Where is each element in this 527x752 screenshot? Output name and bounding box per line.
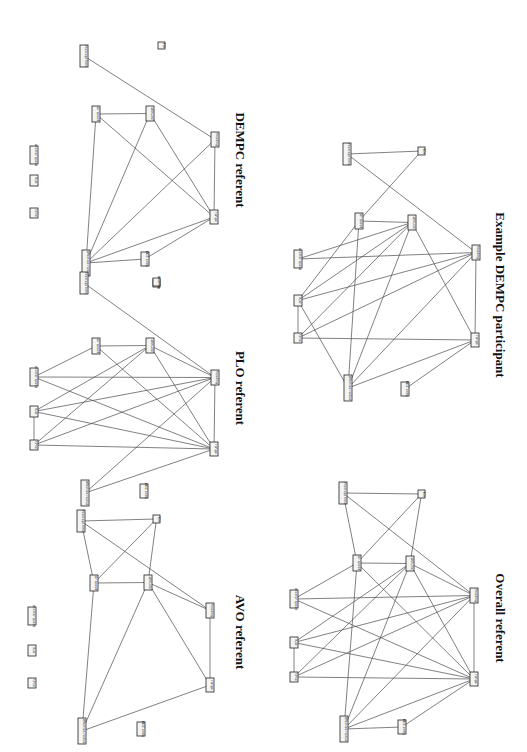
node-label: range [214, 444, 218, 453]
node-altitude: altitude [146, 106, 154, 121]
edge-intercept_time-toi [343, 493, 422, 494]
panel-title-avo: AVO referent [233, 595, 248, 670]
node-altitude: altitude [408, 215, 416, 230]
node-effective_radius: effective radius [340, 716, 348, 742]
node-label: heading [474, 589, 478, 602]
node-altitude: altitude [146, 338, 154, 353]
node-label: BDZ entry [141, 721, 145, 737]
edge-air_speed-altitude [357, 563, 410, 564]
edge-intercept_time-toi [347, 151, 422, 154]
node-label: range [475, 335, 479, 344]
node-bdz_entry: BDZ entry [141, 251, 149, 267]
edge-fuel-heading [294, 596, 474, 643]
node-label: shooter speed [298, 248, 302, 271]
node-shooter_speed: shooter speed [290, 588, 298, 611]
node-label: time [34, 209, 38, 216]
edge-altitude-fuel [34, 346, 150, 412]
edge-range-effective_radius [82, 685, 210, 731]
edge-time-heading [294, 596, 474, 678]
node-fuel: fuel [28, 645, 36, 656]
edge-fuel-effective_radius [298, 301, 348, 389]
edge-heading-effective_radius [348, 253, 476, 389]
edge-air_speed-effective_radius [344, 563, 357, 729]
panel-edges-avo [81, 519, 210, 731]
node-air_speed: air speed [353, 555, 361, 571]
node-bdz_entry: BDZ entry [140, 483, 148, 499]
panel-title-overall: Overall referent [493, 573, 508, 663]
edge-shooter_speed-heading [34, 377, 215, 378]
node-label: air speed [96, 107, 100, 122]
node-label: air speed [96, 339, 100, 354]
panel-edges-plo [34, 283, 215, 493]
node-range: range [210, 210, 218, 224]
node-label: heading [210, 604, 214, 617]
node-label: heading [215, 371, 219, 384]
edge-intercept_time-heading [347, 154, 476, 253]
edge-fuel-range [294, 643, 474, 680]
edge-altitude-range [412, 223, 475, 341]
node-label: BDZ entry [145, 251, 149, 267]
node-label: intercept time [81, 510, 85, 533]
edge-range-bdz_entry [405, 340, 475, 389]
node-label: shooter speed [34, 366, 38, 389]
edge-air_speed-range [96, 114, 214, 217]
panel-title-dempc: DEMPC referent [233, 112, 248, 208]
node-intercept_time: intercept time [339, 482, 347, 505]
panel-nodes-plo: intercept timebearingair speedaltitudesh… [30, 272, 219, 506]
node-label: shooter speed [294, 588, 298, 611]
node-bdz_entry: BDZ entry [137, 721, 145, 737]
node-label: TOI [162, 42, 166, 48]
panel-title-example_dempc: Example DEMPC participant [493, 212, 508, 378]
panel-edges-overall [294, 493, 474, 729]
node-toi: TOI [418, 147, 426, 155]
edge-altitude-range [150, 114, 214, 218]
node-label: effective radius [82, 719, 86, 744]
edge-range-effective_radius [348, 340, 475, 388]
node-shooter_speed: shooter speed [30, 144, 38, 167]
edge-fuel-heading [298, 253, 476, 301]
edge-altitude-range [410, 564, 474, 680]
node-heading: heading [472, 245, 480, 260]
node-range: range [471, 333, 479, 347]
edge-heading-range [475, 253, 476, 341]
node-label: intercept time [84, 272, 88, 295]
node-intercept_time: intercept time [77, 510, 85, 533]
node-label: fuel [34, 409, 38, 415]
node-range: range [206, 678, 214, 692]
edge-air_speed-altitude [94, 583, 148, 584]
node-altitude: altitude [406, 556, 414, 571]
node-intercept_time: intercept time [343, 143, 351, 166]
node-toi: TOI [158, 42, 166, 49]
node-label: range [474, 674, 478, 683]
edge-range-effective_radius [85, 449, 214, 493]
node-label: shooter speed [32, 605, 36, 628]
node-heading: heading [206, 603, 214, 618]
node-label: intercept time [343, 482, 347, 505]
node-label: intercept time [84, 45, 88, 68]
node-label: altitude [148, 576, 152, 588]
edge-altitude-fuel [298, 223, 412, 301]
node-range: range [210, 442, 218, 456]
node-label: bearing [157, 276, 161, 288]
edge-altitude-time [294, 564, 410, 678]
node-shooter_speed: shooter speed [30, 366, 38, 389]
node-label: TOI [422, 147, 426, 153]
node-label: effective radius [348, 376, 352, 401]
edge-range-bdz_entry [402, 679, 474, 727]
node-label: TOI [422, 490, 426, 496]
edge-shooter_speed-heading [298, 253, 476, 260]
edge-effective_radius-bdz_entry [344, 727, 402, 729]
node-label: heading [215, 133, 219, 146]
edge-air_speed-shooter_speed [294, 563, 357, 599]
node-bdz_entry: BDZ entry [398, 719, 406, 735]
node-label: fuel [34, 178, 38, 184]
edge-altitude-time [34, 346, 150, 446]
node-shooter_speed: shooter speed [28, 605, 36, 628]
edge-shooter_speed-heading [294, 596, 474, 600]
node-heading: heading [211, 132, 219, 147]
node-label: time [34, 441, 38, 448]
node-label: air speed [94, 576, 98, 591]
edge-toi-altitude [148, 519, 157, 583]
edge-air_speed-fuel [298, 221, 359, 301]
edge-air_speed-effective_radius [86, 114, 96, 263]
